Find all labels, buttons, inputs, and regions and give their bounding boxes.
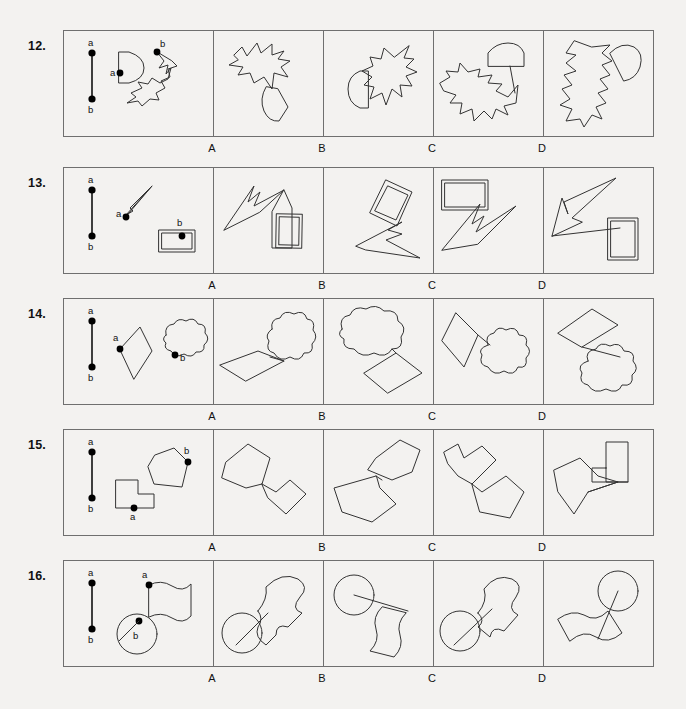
option-label-b: B	[307, 142, 337, 154]
ref-label-b: b	[88, 503, 93, 514]
option-panel-a[interactable]	[213, 31, 323, 136]
ref-label-b: b	[88, 241, 93, 252]
prompt-panel: a b a b	[64, 299, 213, 404]
question-number: 15.	[28, 438, 46, 452]
option-panel-c[interactable]	[433, 430, 543, 535]
reference-segment	[88, 49, 95, 102]
ref-label-a: a	[88, 305, 94, 316]
option-panel-c[interactable]	[433, 31, 543, 136]
prompt-shape-L-block: a	[116, 480, 154, 522]
option-label-a: A	[197, 410, 227, 422]
option-label-a: A	[197, 279, 227, 291]
svg-text:b: b	[133, 630, 138, 641]
option-label-c: C	[417, 672, 447, 684]
option-panel-b[interactable]	[323, 31, 433, 136]
option-label-d: D	[527, 142, 557, 154]
test-sheet: 12. a b a	[0, 0, 686, 709]
option-label-c: C	[417, 279, 447, 291]
option-label-b: B	[307, 672, 337, 684]
option-panel-d[interactable]	[543, 561, 653, 666]
option-panel-c[interactable]	[433, 561, 543, 666]
svg-text:b: b	[160, 38, 165, 49]
question-number: 16.	[28, 569, 46, 583]
option-label-c: C	[417, 541, 447, 553]
prompt-panel: a b a b	[64, 31, 213, 136]
option-panel-c[interactable]	[433, 299, 543, 404]
ref-label-a: a	[88, 174, 94, 185]
option-panel-a[interactable]	[213, 561, 323, 666]
option-label-d: D	[527, 279, 557, 291]
option-panel-d[interactable]	[543, 168, 653, 273]
option-label-d: D	[527, 410, 557, 422]
option-panel-b[interactable]	[323, 299, 433, 404]
svg-text:a: a	[113, 332, 119, 343]
option-panel-c[interactable]	[433, 168, 543, 273]
ref-label-b: b	[88, 634, 93, 645]
option-label-c: C	[417, 142, 447, 154]
ref-label-a: a	[88, 436, 94, 447]
option-label-d: D	[527, 541, 557, 553]
reference-segment	[88, 579, 95, 632]
prompt-panel: a b a b	[64, 430, 213, 535]
option-label-c: C	[417, 410, 447, 422]
prompt-shape-circle: b	[117, 614, 157, 654]
svg-text:a: a	[116, 208, 122, 219]
prompt-panel: a b b a	[64, 561, 213, 666]
option-label-d: D	[527, 672, 557, 684]
question-number: 12.	[28, 39, 46, 53]
prompt-shape-cloud: b	[164, 319, 208, 363]
ref-label-a: a	[88, 567, 94, 578]
option-label-a: A	[197, 541, 227, 553]
svg-text:b: b	[184, 445, 189, 456]
question-strip: a b a b	[63, 298, 654, 405]
option-panel-a[interactable]	[213, 430, 323, 535]
question-strip: a b b a	[63, 560, 654, 667]
option-panel-d[interactable]	[543, 430, 653, 535]
prompt-panel: a b a b	[64, 168, 213, 273]
option-panel-a[interactable]	[213, 168, 323, 273]
option-panel-b[interactable]	[323, 168, 433, 273]
prompt-shape-half-disc: a	[110, 52, 144, 83]
option-label-a: A	[197, 672, 227, 684]
question-number: 13.	[28, 176, 46, 190]
option-panel-b[interactable]	[323, 561, 433, 666]
option-label-a: A	[197, 142, 227, 154]
svg-text:b: b	[180, 352, 185, 363]
option-panel-d[interactable]	[543, 31, 653, 136]
svg-text:a: a	[130, 511, 136, 522]
svg-text:a: a	[110, 67, 116, 78]
prompt-shape-diamond: a	[113, 327, 152, 379]
question-number: 14.	[28, 307, 46, 321]
option-label-b: B	[307, 410, 337, 422]
reference-segment	[88, 317, 95, 370]
prompt-shape-lightning-arrow: a	[116, 186, 152, 220]
option-panel-a[interactable]	[213, 299, 323, 404]
prompt-shape-wavy-flag: a	[142, 569, 191, 621]
question-strip: a b a b	[63, 429, 654, 536]
prompt-shape-pentagon: b	[148, 445, 191, 487]
prompt-shape-star-blob: b	[127, 38, 177, 106]
reference-segment	[88, 186, 95, 239]
ref-label-b: b	[88, 372, 93, 383]
option-panel-b[interactable]	[323, 430, 433, 535]
ref-label-a: a	[88, 37, 94, 48]
option-label-b: B	[307, 279, 337, 291]
reference-segment	[88, 448, 95, 501]
svg-text:a: a	[142, 569, 148, 580]
prompt-shape-double-rectangle: b	[159, 217, 195, 252]
question-strip: a b a b	[63, 30, 654, 137]
ref-label-b: b	[88, 104, 93, 115]
option-panel-d[interactable]	[543, 299, 653, 404]
question-strip: a b a b	[63, 167, 654, 274]
option-label-b: B	[307, 541, 337, 553]
svg-text:b: b	[177, 217, 182, 228]
